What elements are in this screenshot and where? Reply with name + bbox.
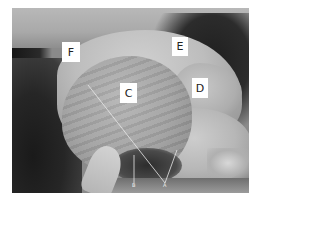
label-b: B [132, 182, 135, 188]
label-d: D [192, 78, 208, 98]
label-e: E [172, 37, 188, 56]
label-a: A [163, 182, 166, 188]
membrane-tissue [207, 148, 249, 178]
label-c: C [120, 83, 137, 103]
ground-bottom [107, 178, 249, 193]
label-f: F [62, 42, 80, 62]
